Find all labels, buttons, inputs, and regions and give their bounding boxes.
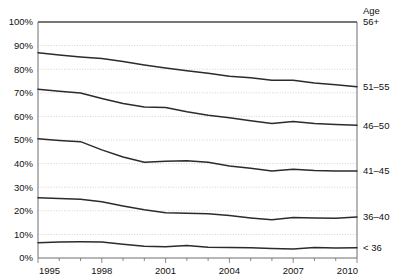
y-tick-label-80: 80% [14,64,34,75]
age-share-chart: 0%10%20%30%40%50%60%70%80%90%100% 199519… [0,0,413,280]
x-tick-label-1995: 1995 [39,265,60,276]
y-tick-label-90: 90% [14,40,34,51]
y-tick-label-40: 40% [14,158,34,169]
x-tick-label-2010: 2010 [337,265,358,276]
band-label-56-: 56+ [363,16,380,27]
x-tick-label-1998: 1998 [91,265,112,276]
band-label--36: < 36 [363,242,382,253]
band-label-46-50: 46–50 [363,120,389,131]
y-tick-label-70: 70% [14,87,34,98]
y-tick-label-0: 0% [19,252,33,263]
y-tick-label-50: 50% [14,134,34,145]
chart-canvas: 0%10%20%30%40%50%60%70%80%90%100% 199519… [0,0,413,280]
band-label-51-55: 51–55 [363,81,389,92]
x-tick-label-2004: 2004 [219,265,240,276]
x-tick-label-2001: 2001 [155,265,176,276]
series-line-41-45 [38,139,357,171]
y-axis-tick-labels: 0%10%20%30%40%50%60%70%80%90%100% [9,16,34,263]
y-tick-label-30: 30% [14,182,34,193]
legend-title: Age [363,5,380,16]
axes [38,22,357,263]
series-line-51-55 [38,53,357,87]
y-tick-label-10: 10% [14,229,34,240]
series-line-36-40 [38,198,357,220]
band-label-36-40: 36–40 [363,211,389,222]
series-line-46-50 [38,89,357,125]
y-tick-label-20: 20% [14,205,34,216]
x-tick-label-2007: 2007 [283,265,304,276]
legend-right-labels: 56+51–5546–5041–4536–40< 36 [363,16,389,253]
series-line--36 [38,242,357,249]
y-tick-label-60: 60% [14,111,34,122]
band-label-41-45: 41–45 [363,165,389,176]
gridlines [38,46,357,235]
series-lines [38,53,357,249]
y-tick-label-100: 100% [9,16,34,27]
x-axis-tick-labels: 199519982001200420072010 [39,265,358,276]
